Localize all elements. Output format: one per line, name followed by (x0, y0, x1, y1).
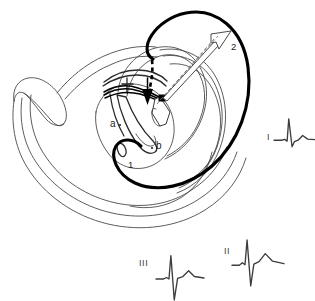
right-lobe-contour-2 (163, 55, 222, 188)
activation-arrow-down (142, 78, 153, 105)
ecg-trace-lead-I (274, 119, 315, 147)
ecg-trace-lead-II (232, 240, 284, 286)
open-arrow-shaft (163, 41, 219, 101)
exit-vector-arrow (157, 31, 231, 104)
figure-root: 2 1 a b I II III (0, 0, 315, 301)
ecg-label-lead-I: I (267, 133, 270, 142)
atrial-silhouette-group (13, 46, 246, 227)
label-site-b: b (156, 141, 162, 151)
label-circuit-2: 2 (231, 42, 236, 52)
label-site-a: a (110, 119, 116, 129)
label-circuit-1: 1 (128, 160, 133, 170)
ecg-traces-group (156, 119, 315, 300)
arrow-guide-dashed-2 (157, 39, 214, 104)
arrowhead-down (142, 89, 153, 105)
ecg-label-lead-III: III (139, 259, 148, 268)
right-lobe-tail (130, 152, 212, 208)
outer-body-lower-contour-3 (30, 95, 227, 205)
ecg-label-lead-II: II (224, 247, 230, 256)
ecg-trace-lead-III (156, 256, 204, 300)
dashed-conduction-path (149, 60, 152, 91)
coronary-sinus-orifice (117, 143, 126, 156)
dashed-breakthrough-path (149, 60, 152, 91)
circuit-bold-loop (114, 12, 249, 188)
reentrant-circuit-loop (114, 12, 249, 188)
outer-body-lower-contour-2 (21, 98, 237, 216)
